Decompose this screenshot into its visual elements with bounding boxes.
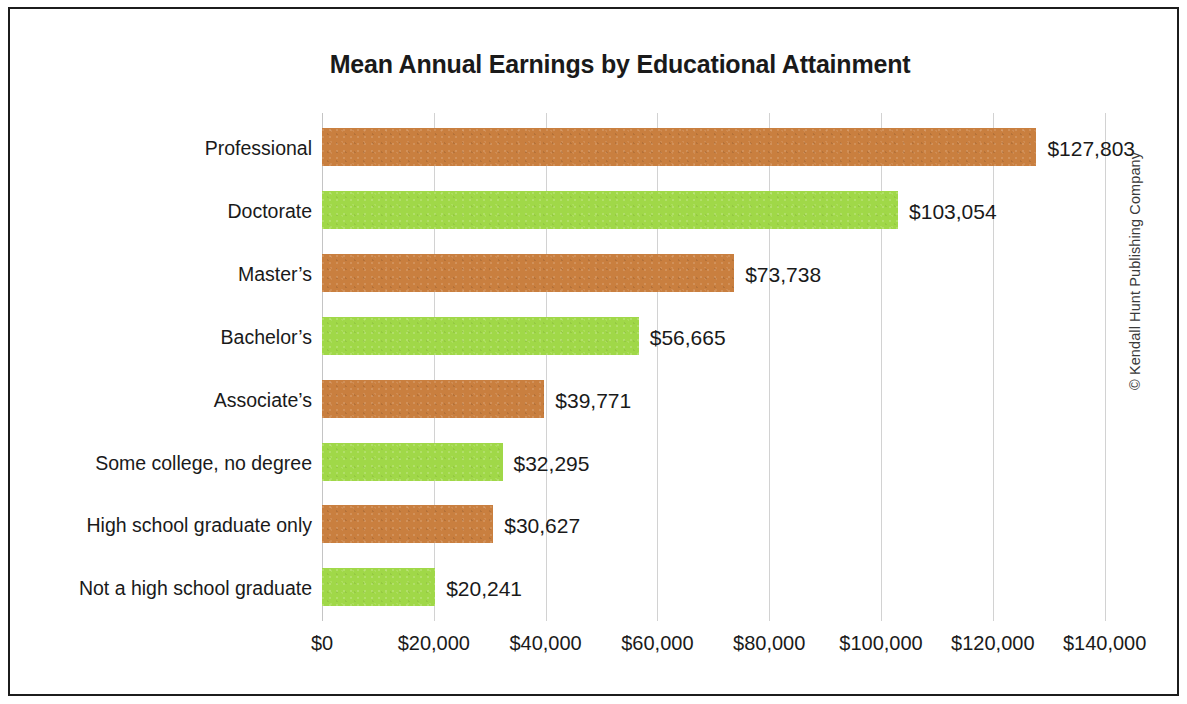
category-label: Master’s [0,263,312,286]
x-axis-tick-label: $100,000 [839,633,922,653]
bar-value-label: $30,627 [504,515,580,536]
gridline [769,113,770,621]
x-axis-tick-label: $0 [311,633,333,653]
bar-value-label: $20,241 [446,578,522,599]
bar-value-label: $103,054 [909,201,997,222]
category-label: Professional [0,137,312,160]
x-axis-tick-label: $140,000 [1063,633,1146,653]
bar [322,317,639,355]
x-axis-tick-label: $40,000 [509,633,581,653]
bar-value-label: $39,771 [555,390,631,411]
x-axis-tick-label: $120,000 [951,633,1034,653]
category-label: Associate’s [0,389,312,412]
bar-value-label: $32,295 [514,453,590,474]
gridline [546,113,547,621]
category-label: Some college, no degree [0,452,312,475]
chart-page: Mean Annual Earnings by Educational Atta… [0,0,1187,704]
bar [322,505,493,543]
bar [322,568,435,606]
copyright-notice: © Kendall Hunt Publishing Company [1127,152,1143,390]
bar-value-label: $56,665 [650,327,726,348]
category-label: Bachelor’s [0,326,312,349]
category-label: Not a high school graduate [0,577,312,600]
bar [322,191,898,229]
gridline [434,113,435,621]
gridline [322,113,323,621]
gridline [993,113,994,621]
bar [322,443,503,481]
category-label: Doctorate [0,200,312,223]
bar-value-label: $127,803 [1047,138,1135,159]
bar [322,128,1036,166]
gridline [1105,113,1106,621]
x-axis-tick-label: $20,000 [398,633,470,653]
category-label: High school graduate only [0,514,312,537]
gridline [881,113,882,621]
x-axis-tick-label: $80,000 [733,633,805,653]
x-axis-tick-label: $60,000 [621,633,693,653]
bar-value-label: $73,738 [745,264,821,285]
bar [322,380,544,418]
gridline [657,113,658,621]
bar [322,254,734,292]
plot-area: Professional$127,803Doctorate$103,054Mas… [0,0,1187,704]
